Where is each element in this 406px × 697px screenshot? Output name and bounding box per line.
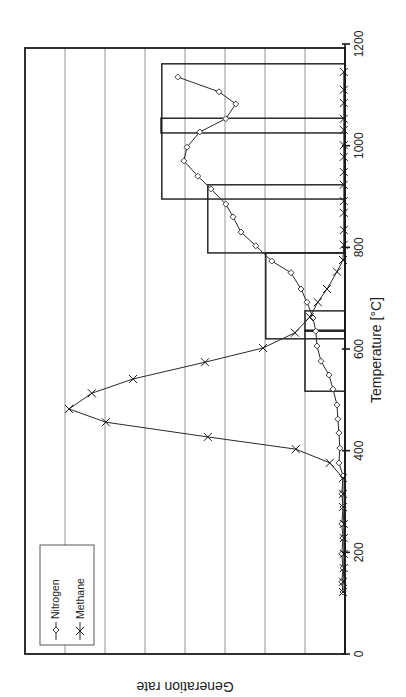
diamond-marker-icon	[175, 74, 181, 80]
diamond-marker-icon	[339, 491, 345, 497]
x-axis-title: Temperature [°C]	[368, 297, 384, 403]
diamond-marker-icon	[223, 116, 229, 122]
x-marker-icon	[314, 298, 322, 306]
x-marker-icon	[88, 389, 96, 397]
gridlines	[65, 48, 305, 654]
x-tick-label: 0	[352, 650, 366, 657]
x-tick-label: 400	[352, 440, 366, 460]
bar-outline	[161, 118, 345, 133]
diamond-marker-icon	[298, 286, 304, 292]
x-marker-icon	[65, 405, 73, 413]
diamond-marker-icon	[313, 328, 319, 334]
x-axis-ticks: 020040060080010001200	[342, 30, 366, 657]
diamond-marker-icon	[334, 402, 340, 408]
x-tick-label: 1000	[352, 132, 366, 159]
x-tick-label: 200	[352, 542, 366, 562]
bar-outline	[162, 64, 345, 199]
diamond-marker-icon	[314, 343, 320, 349]
bar-outlines	[161, 64, 345, 391]
bar-outline	[208, 185, 345, 253]
series-line-methane	[69, 72, 344, 592]
diamond-marker-icon	[326, 372, 332, 378]
legend-label-methane: Methane	[74, 578, 86, 619]
diamond-marker-icon	[288, 270, 294, 276]
series-line-nitrogen	[178, 77, 343, 592]
diamond-marker-icon	[336, 460, 342, 466]
diamond-marker-icon	[318, 358, 324, 364]
y-axis-title: Generation rate	[136, 679, 233, 695]
x-marker-icon	[129, 375, 137, 383]
diamond-marker-icon	[230, 214, 236, 220]
legend-label-nitrogen: Nitrogen	[49, 579, 61, 619]
x-marker-icon	[201, 358, 209, 366]
x-marker-icon	[291, 329, 299, 337]
x-tick-label: 1200	[352, 30, 366, 57]
x-marker-icon	[259, 344, 267, 352]
x-marker-icon	[326, 459, 334, 467]
x-marker-icon	[333, 268, 341, 276]
x-marker-icon	[323, 285, 331, 293]
x-tick-label: 800	[352, 237, 366, 257]
diamond-marker-icon	[335, 416, 341, 422]
legend: Nitrogen Methane	[40, 545, 94, 645]
diamond-marker-icon	[337, 445, 343, 451]
x-tick-label: 600	[352, 339, 366, 359]
chart: 020040060080010001200 Temperature [°C] G…	[0, 0, 406, 697]
diamond-marker-icon	[336, 430, 342, 436]
diamond-marker-icon	[339, 579, 345, 585]
